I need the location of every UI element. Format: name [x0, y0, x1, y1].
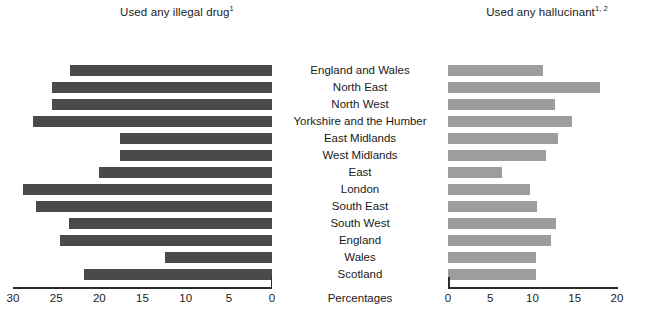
bar-illegal-drug — [84, 269, 272, 280]
bar-hallucinant — [448, 167, 502, 178]
left-tick-label: 30 — [7, 292, 20, 304]
right-chart-plot-area — [448, 62, 617, 283]
bar-hallucinant — [448, 218, 556, 229]
category-label: North East — [274, 79, 446, 96]
category-label: East — [274, 164, 446, 181]
bar-hallucinant — [448, 235, 551, 246]
right-tick-label: 0 — [445, 292, 451, 304]
right-bar-row — [448, 181, 617, 198]
left-axis-zero-cap — [271, 277, 273, 288]
bar-illegal-drug — [60, 235, 272, 246]
left-panel-title-footnote: 1 — [230, 4, 234, 13]
right-panel-title-footnote: 1, 2 — [595, 4, 608, 13]
right-bar-row — [448, 96, 617, 113]
bar-hallucinant — [448, 150, 546, 161]
left-bar-row — [13, 232, 272, 249]
left-bar-row — [13, 198, 272, 215]
left-tick-label: 5 — [226, 292, 232, 304]
left-bar-row — [13, 96, 272, 113]
bar-illegal-drug — [33, 116, 272, 127]
right-tick-label: 15 — [568, 292, 581, 304]
category-label-column: England and WalesNorth EastNorth WestYor… — [274, 62, 446, 283]
right-bar-row — [448, 130, 617, 147]
right-axis-line — [448, 287, 618, 289]
bar-hallucinant — [448, 184, 530, 195]
left-chart-plot-area — [13, 62, 272, 283]
left-tick-label: 15 — [136, 292, 149, 304]
bar-hallucinant — [448, 201, 537, 212]
category-label: West Midlands — [274, 147, 446, 164]
left-tick-label: 10 — [179, 292, 192, 304]
right-bar-row — [448, 215, 617, 232]
right-axis-zero-cap — [448, 277, 450, 288]
left-bar-row — [13, 113, 272, 130]
right-bar-row — [448, 198, 617, 215]
right-panel-title-text: Used any hallucinant — [486, 6, 595, 18]
right-tick-label: 10 — [526, 292, 539, 304]
category-label: North West — [274, 96, 446, 113]
bar-hallucinant — [448, 252, 536, 263]
bar-illegal-drug — [70, 65, 272, 76]
left-bar-row — [13, 164, 272, 181]
left-bar-row — [13, 79, 272, 96]
bar-hallucinant — [448, 99, 555, 110]
category-label: Scotland — [274, 266, 446, 283]
left-tick-label: 25 — [50, 292, 63, 304]
bar-illegal-drug — [52, 82, 272, 93]
category-label: Wales — [274, 249, 446, 266]
right-bar-row — [448, 164, 617, 181]
right-panel-title: Used any hallucinant1, 2 — [452, 6, 642, 18]
bar-illegal-drug — [23, 184, 272, 195]
figure-container: Used any illegal drug1 Used any hallucin… — [0, 0, 650, 319]
left-bar-row — [13, 147, 272, 164]
bar-hallucinant — [448, 133, 558, 144]
left-tick-label: 20 — [93, 292, 106, 304]
category-label: Yorkshire and the Humber — [274, 113, 446, 130]
bar-illegal-drug — [120, 150, 272, 161]
category-label: South West — [274, 215, 446, 232]
axis-caption: Percentages — [281, 292, 439, 304]
bar-illegal-drug — [165, 252, 272, 263]
right-bar-row — [448, 249, 617, 266]
category-label: London — [274, 181, 446, 198]
right-bar-row — [448, 113, 617, 130]
right-tick-label: 20 — [611, 292, 624, 304]
category-label: England and Wales — [274, 62, 446, 79]
left-panel-title: Used any illegal drug1 — [82, 6, 272, 18]
left-bar-row — [13, 215, 272, 232]
category-label: East Midlands — [274, 130, 446, 147]
bar-illegal-drug — [69, 218, 272, 229]
category-label: England — [274, 232, 446, 249]
right-bar-row — [448, 62, 617, 79]
bar-hallucinant — [448, 269, 536, 280]
bar-hallucinant — [448, 116, 572, 127]
right-tick-label: 5 — [487, 292, 493, 304]
right-bar-row — [448, 232, 617, 249]
bar-illegal-drug — [52, 99, 272, 110]
left-bar-row — [13, 266, 272, 283]
left-bar-row — [13, 130, 272, 147]
left-tick-label: 0 — [269, 292, 275, 304]
left-panel-title-text: Used any illegal drug — [120, 6, 230, 18]
bar-illegal-drug — [36, 201, 272, 212]
bar-illegal-drug — [120, 133, 272, 144]
right-bar-row — [448, 266, 617, 283]
bar-hallucinant — [448, 82, 600, 93]
left-bar-row — [13, 62, 272, 79]
bar-hallucinant — [448, 65, 543, 76]
right-bar-row — [448, 79, 617, 96]
left-bar-row — [13, 249, 272, 266]
bar-illegal-drug — [99, 167, 272, 178]
left-bar-row — [13, 181, 272, 198]
right-bar-row — [448, 147, 617, 164]
category-label: South East — [274, 198, 446, 215]
left-axis-line — [13, 287, 272, 289]
